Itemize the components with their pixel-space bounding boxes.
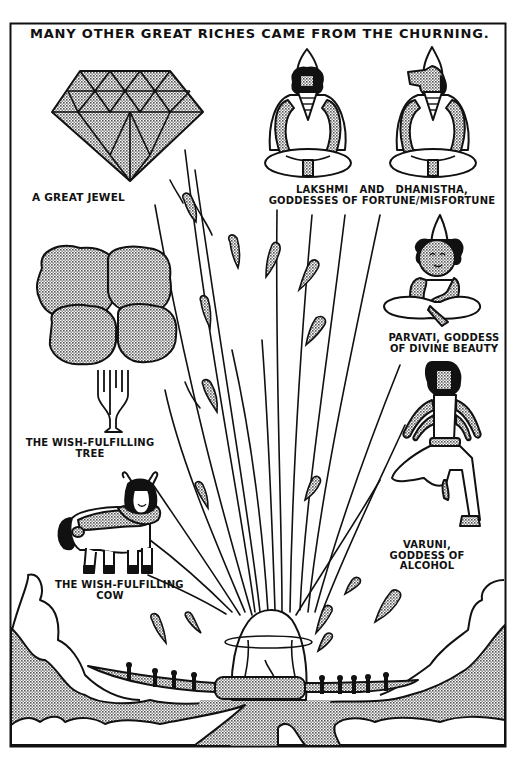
- parvati-figure: [384, 215, 480, 326]
- lakshmi-figure: [265, 49, 351, 177]
- caption-wish-fulfilling-cow: THE WISH-FULFILLING COW: [55, 580, 165, 601]
- caption-wish-fulfilling-tree: THE WISH-FULFILLING TREE: [20, 438, 160, 459]
- splash-lines: [148, 150, 405, 615]
- varuni-figure: [392, 362, 481, 526]
- great-jewel-figure: [52, 71, 203, 181]
- caption-varuni: VARUNI, GODDESS OF ALCOHOL: [382, 540, 472, 572]
- dhanistha-figure: [390, 47, 476, 177]
- caption-parvati: PARVATI, GODDESS OF DIVINE BEAUTY: [385, 333, 503, 354]
- caption-great-jewel: A GREAT JEWEL: [32, 192, 125, 203]
- panel-title: MANY OTHER GREAT RICHES CAME FROM THE CH…: [30, 27, 489, 41]
- wish-fulfilling-tree-figure: [37, 246, 176, 432]
- splash-drops: [151, 193, 401, 651]
- comic-panel: [0, 0, 526, 763]
- wish-fulfilling-cow-figure: [59, 472, 161, 573]
- caption-lakshmi-dhanistha: LAKSHMI AND DHANISTHA, GODDESSES OF FORT…: [262, 185, 502, 206]
